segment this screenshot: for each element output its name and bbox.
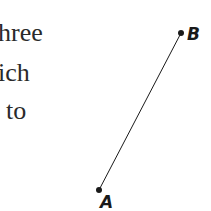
point-b-dot	[178, 30, 184, 36]
point-a-label: A	[100, 194, 113, 211]
line-segment-figure	[0, 0, 211, 211]
segment-ab	[99, 33, 181, 190]
point-b-label: B	[187, 26, 200, 43]
